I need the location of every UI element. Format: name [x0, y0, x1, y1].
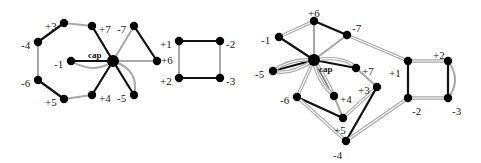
node-m5: [130, 91, 138, 99]
edges-layer: [38, 21, 455, 141]
graph-diagram-canvas: +3-4-1-6+5+7-7cap+6+4-5+1-2+2-3+6-1-7cap…: [0, 0, 481, 163]
node-label: +2: [160, 75, 172, 87]
node-m3: [444, 94, 452, 102]
node-label: -4: [333, 149, 343, 161]
node-p2: [175, 74, 183, 82]
node-label: +2: [433, 49, 445, 61]
edge-m4-m2: [346, 98, 408, 141]
node-p3: [60, 19, 68, 27]
node-label: +6: [161, 54, 173, 66]
node-label: +3: [45, 20, 57, 32]
node-m7: [343, 31, 351, 39]
node-label: -3: [226, 75, 236, 87]
node-m1: [67, 57, 75, 65]
edge-p5-p4: [64, 95, 92, 99]
node-p5: [60, 95, 68, 103]
node-label: -4: [21, 39, 31, 51]
node-p3: [373, 83, 381, 91]
nodes-layer: [34, 17, 452, 145]
node-label: cap: [88, 50, 102, 60]
node-p5: [339, 114, 347, 122]
node-cap: [107, 55, 119, 67]
node-label: -2: [412, 105, 421, 117]
node-label: -1: [261, 34, 270, 46]
node-label: -1: [54, 58, 63, 70]
edge-m7-p1: [347, 35, 408, 61]
node-label: -3: [452, 105, 462, 117]
node-label: +7: [362, 65, 374, 77]
edge-p6-m7: [314, 21, 347, 35]
node-p4: [88, 91, 96, 99]
node-label: +1: [389, 67, 401, 79]
node-label: -5: [117, 92, 127, 104]
edge-m1-p6: [279, 21, 314, 37]
node-label: +7: [99, 23, 111, 35]
node-label: +5: [334, 124, 346, 136]
node-label: cap: [319, 64, 333, 74]
node-label: +4: [340, 93, 352, 105]
node-label: +5: [45, 96, 57, 108]
edge-m7-cap: [314, 35, 347, 60]
labels-layer: +3-4-1-6+5+7-7cap+6+4-5+1-2+2-3+6-1-7cap…: [21, 7, 462, 161]
node-m1: [275, 33, 283, 41]
node-p4: [330, 92, 338, 100]
edge-m7-p6: [134, 26, 157, 61]
node-m6: [293, 93, 301, 101]
node-m5: [269, 67, 277, 75]
node-m7: [130, 22, 138, 30]
node-label: -6: [21, 77, 31, 89]
node-label: -6: [280, 94, 290, 106]
node-p7: [88, 22, 96, 30]
node-p6: [153, 57, 161, 65]
node-label: -7: [117, 23, 127, 35]
node-label: -5: [255, 68, 265, 80]
node-label: +3: [358, 84, 370, 96]
node-m2: [404, 94, 412, 102]
node-m4: [342, 137, 350, 145]
edge-m1-cap: [279, 37, 314, 60]
node-label: +1: [160, 38, 172, 50]
node-m4: [34, 38, 42, 46]
node-p1: [175, 37, 183, 45]
node-m2: [216, 37, 224, 45]
edge-p3-p7: [64, 23, 92, 26]
node-p1: [404, 57, 412, 65]
node-p7: [352, 64, 360, 72]
node-m3: [216, 74, 224, 82]
node-label: +6: [308, 7, 320, 19]
node-label: -7: [352, 22, 362, 34]
node-p2: [444, 57, 452, 65]
node-label: -2: [226, 38, 235, 50]
node-label: +4: [99, 92, 111, 104]
node-m6: [34, 76, 42, 84]
